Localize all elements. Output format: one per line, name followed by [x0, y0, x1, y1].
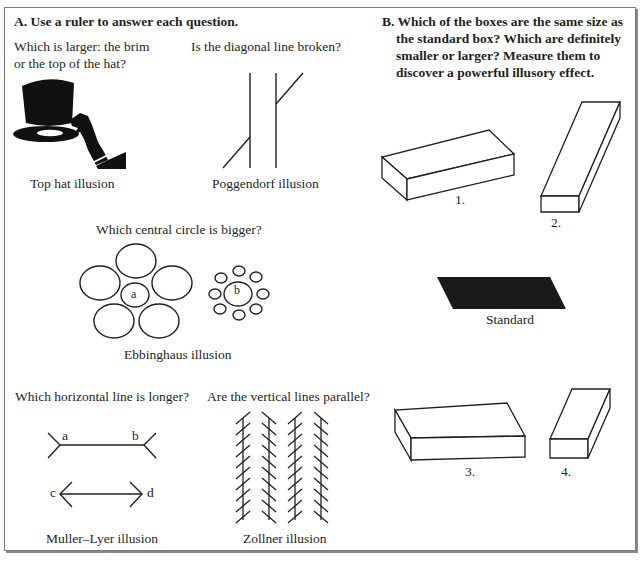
top-hat-figure	[13, 79, 126, 169]
zollner-figure	[236, 412, 328, 523]
muller-lyer-figure	[48, 433, 156, 507]
box-3-figure	[395, 403, 525, 460]
standard-box-figure	[437, 277, 566, 309]
box-2-figure	[541, 102, 620, 212]
poggendorf-figure	[223, 73, 303, 168]
ebbinghaus-figure	[80, 244, 269, 338]
box-4-figure	[550, 389, 610, 458]
illustrations	[0, 0, 641, 562]
box-1-figure	[382, 130, 514, 200]
